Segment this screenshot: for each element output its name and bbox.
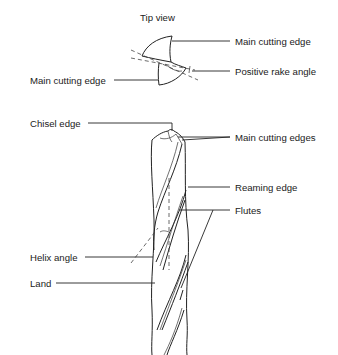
label-land: Land	[30, 278, 51, 289]
label-chisel-edge: Chisel edge	[30, 118, 81, 129]
label-positive-rake-angle: Positive rake angle	[235, 66, 316, 77]
label-main-cutting-edge-right: Main cutting edge	[235, 36, 311, 47]
label-main-cutting-edges: Main cutting edges	[235, 132, 316, 143]
label-helix-angle: Helix angle	[30, 252, 77, 263]
tip-view-title: Tip view	[140, 12, 175, 23]
tip-view-drawing	[114, 36, 230, 85]
drill-side-view-drawing	[56, 123, 230, 355]
label-main-cutting-edge-left: Main cutting edge	[30, 75, 106, 86]
twist-drill-diagram: Tip view Main cutting edge Positive rake…	[0, 0, 338, 355]
label-flutes: Flutes	[235, 205, 261, 216]
label-reaming-edge: Reaming edge	[235, 182, 297, 193]
